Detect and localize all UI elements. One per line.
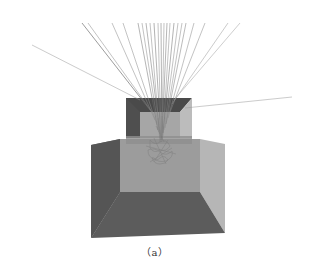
outer-box-back-face bbox=[120, 139, 200, 192]
outer-box bbox=[91, 139, 225, 238]
simulation-figure bbox=[0, 0, 310, 270]
figure-caption: （a） bbox=[0, 244, 310, 259]
